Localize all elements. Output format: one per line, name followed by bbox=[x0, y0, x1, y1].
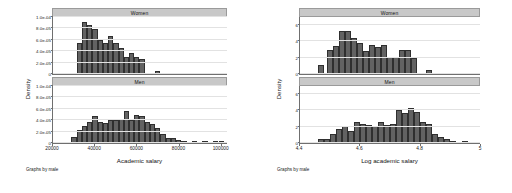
gridline bbox=[53, 62, 227, 63]
y-tick-label: 2.0e-05 bbox=[36, 60, 53, 65]
x-tick-label: 20000 bbox=[45, 146, 58, 151]
y-tick-label: 4 bbox=[296, 108, 300, 113]
x-tick-label: 60000 bbox=[130, 146, 143, 151]
x-tick-label: 100000 bbox=[213, 146, 229, 151]
gridline bbox=[53, 142, 227, 143]
gridline bbox=[53, 73, 227, 74]
panel-title-men: Men bbox=[299, 77, 480, 86]
plot-area-men: 0246 bbox=[299, 86, 480, 144]
gridline bbox=[53, 108, 227, 109]
y-tick-label: 0 bbox=[296, 72, 300, 77]
y-tick-label: 8.0e-05 bbox=[36, 26, 53, 31]
panel-stack: Women 02.0e-054.0e-056.0e-058.0e-051.0e-… bbox=[52, 8, 227, 144]
gridline bbox=[300, 93, 480, 94]
y-tick-label: 1.0e-04 bbox=[36, 84, 53, 89]
y-tick-label: 2.0e-05 bbox=[36, 129, 53, 134]
x-axis-salary: 20000400006000080000100000 bbox=[52, 144, 227, 158]
y-tick-label: 6.0e-05 bbox=[36, 37, 53, 42]
y-tick-label: 0 bbox=[49, 72, 53, 77]
gridline bbox=[53, 27, 227, 28]
x-axis-title: Academic salary bbox=[52, 157, 227, 164]
figure-log-salary-histogram: Density Women 0246 Men 0246 4.44.64.85 L… bbox=[273, 6, 486, 172]
panel-title-women: Women bbox=[299, 8, 480, 17]
y-tick-label: 8.0e-05 bbox=[36, 95, 53, 100]
panel-stack: Women 0246 Men 0246 bbox=[299, 8, 480, 144]
gridline bbox=[53, 50, 227, 51]
gridline bbox=[300, 126, 480, 127]
panel-men: Men 02.0e-054.0e-056.0e-058.0e-051.0e-04 bbox=[52, 77, 227, 144]
figure-note: Graphs by male bbox=[26, 167, 58, 172]
y-tick-label: 4.0e-05 bbox=[36, 118, 53, 123]
histogram-bar bbox=[411, 58, 417, 74]
figure-note: Graphs by male bbox=[277, 167, 309, 172]
gridline bbox=[53, 39, 227, 40]
x-axis-title: Log academic salary bbox=[299, 157, 480, 164]
gridline bbox=[300, 40, 480, 41]
y-tick-label: 6.0e-05 bbox=[36, 106, 53, 111]
y-tick-label: 4 bbox=[296, 39, 300, 44]
plot-area-women: 0246 bbox=[299, 17, 480, 75]
gridline bbox=[300, 57, 480, 58]
x-tick-label: 80000 bbox=[172, 146, 185, 151]
x-tick-label: 4.8 bbox=[416, 146, 423, 151]
gridline bbox=[53, 96, 227, 97]
bars-men bbox=[300, 86, 480, 143]
gridline bbox=[300, 142, 480, 143]
y-tick-label: 4.0e-05 bbox=[36, 49, 53, 54]
gridline bbox=[300, 24, 480, 25]
plot-area-men: 02.0e-054.0e-056.0e-058.0e-051.0e-04 bbox=[52, 86, 227, 144]
y-tick-label: 2 bbox=[296, 124, 300, 129]
panel-men: Men 0246 bbox=[299, 77, 480, 144]
gridline bbox=[53, 85, 227, 86]
screenshot-canvas: Density Women 02.0e-054.0e-056.0e-058.0e… bbox=[0, 0, 512, 193]
bars-women bbox=[300, 17, 480, 74]
plot-area-women: 02.0e-054.0e-056.0e-058.0e-051.0e-04 bbox=[52, 17, 227, 75]
x-axis-log-salary: 4.44.64.85 bbox=[299, 144, 480, 158]
x-tick-label: 5 bbox=[479, 146, 482, 151]
bars-women bbox=[53, 17, 227, 74]
panel-women: Women 02.0e-054.0e-056.0e-058.0e-051.0e-… bbox=[52, 8, 227, 75]
gridline bbox=[300, 109, 480, 110]
x-tick-label: 4.4 bbox=[296, 146, 303, 151]
gridline bbox=[53, 119, 227, 120]
y-tick-label: 2 bbox=[296, 55, 300, 60]
y-axis-title: Density bbox=[276, 79, 282, 100]
y-tick-label: 6 bbox=[296, 92, 300, 97]
y-tick-label: 6 bbox=[296, 23, 300, 28]
figure-salary-histogram: Density Women 02.0e-054.0e-056.0e-058.0e… bbox=[22, 6, 233, 172]
gridline bbox=[53, 131, 227, 132]
y-axis-title: Density bbox=[25, 79, 31, 100]
panel-women: Women 0246 bbox=[299, 8, 480, 75]
y-tick-label: 1.0e-04 bbox=[36, 15, 53, 20]
gridline bbox=[53, 16, 227, 17]
x-tick-label: 4.6 bbox=[356, 146, 363, 151]
bars-men bbox=[53, 86, 227, 143]
x-tick-label: 40000 bbox=[87, 146, 100, 151]
gridline bbox=[300, 73, 480, 74]
